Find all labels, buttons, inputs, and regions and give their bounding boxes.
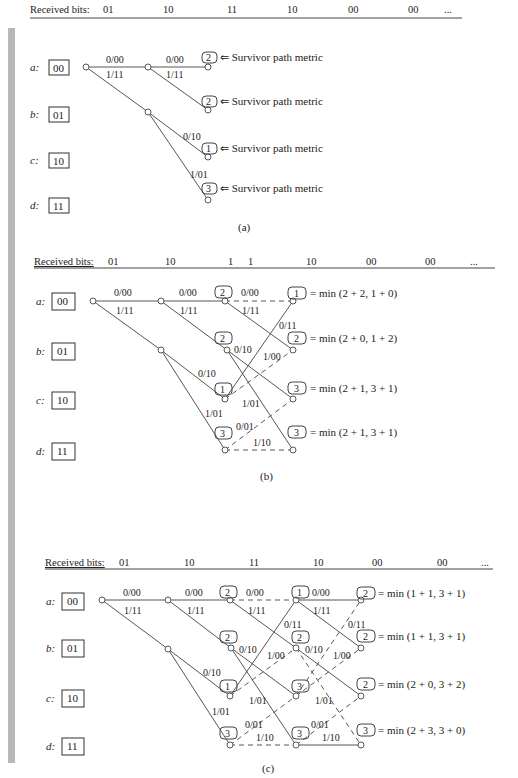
state-label: b: [36,345,45,357]
path-metric: 1 [206,143,211,154]
metric-note: ⇐ Survivor path metric [220,182,323,194]
branch-label: 1/01 [205,408,223,419]
state-label: a: [30,61,39,73]
received-bit: 10 [313,557,324,568]
received-bit: 00 [425,256,436,267]
received-bit: ... [481,557,489,568]
received-bit: 01 [108,256,119,267]
state-label: c: [30,154,39,166]
state-value: 00 [67,595,79,607]
received-bit: 10 [184,557,195,568]
metric-formula: = min (2 + 1, 3 + 1) [310,382,397,395]
branch-label: 1/11 [106,69,123,80]
branch-label: 0/10 [183,131,201,142]
state-label: a: [36,295,45,307]
path-metric: 2 [220,287,225,298]
state-value: 11 [57,445,68,457]
state-label: d: [46,740,55,752]
path-metric: 2 [363,679,368,690]
branch-label: 0/00 [106,54,124,65]
branch-label: 1/11 [313,605,330,616]
branch-label: 0/00 [246,587,264,598]
state-label: d: [36,445,45,457]
branch-label: 0/00 [123,587,141,598]
branch-label: 1/11 [166,69,183,80]
path-metric: 1 [297,587,302,598]
branch-label: 1/01 [190,169,208,180]
branch-label: 0/10 [203,667,221,678]
received-bit: 00 [408,4,419,15]
branch-label: 0/01 [245,719,263,730]
path-metric: 3 [294,427,299,438]
path-metric: 3 [363,725,368,736]
received-bits-label: Received bits: [45,557,105,568]
state-value: 11 [53,200,64,212]
received-bit: 11 [249,557,259,568]
received-bit: 01 [119,557,130,568]
branch-label: 0/00 [241,287,259,298]
branch-label: 1/11 [124,605,141,616]
state-value: 01 [67,642,78,654]
branch-label: 0/10 [198,368,216,379]
state-label: b: [46,642,55,654]
branch-label: 0/11 [284,619,301,630]
received-bits-label: Received bits: [34,256,94,267]
path-metric: 2 [363,631,368,642]
path-metric: 3 [297,681,302,692]
state-label: b: [30,108,39,120]
branch-label: 0/11 [348,619,365,630]
state-value: 01 [57,345,68,357]
received-bit: 00 [348,4,359,15]
panel-b: Received bits: 01 10 1 1 10 00 00 ... a:… [34,256,495,483]
panel-a: Received bits: 01 10 11 10 00 00 ... a: … [30,4,462,234]
path-metric: 2 [225,587,230,598]
branch-label: 0/00 [166,54,184,65]
branch-label: 1/01 [242,398,260,409]
figure-caption: (b) [260,470,273,483]
received-bit: 11 [227,4,237,15]
branch-label: 0/10 [234,344,252,355]
received-bit: 10 [287,4,298,15]
branch-label: 1/00 [267,650,285,661]
branch-label: 0/00 [312,587,330,598]
path-metric: 2 [206,52,211,63]
metric-formula: = min (2 + 0, 1 + 2) [310,332,397,345]
path-metric: 2 [297,632,302,643]
branch-label: 1/10 [253,437,271,448]
path-metric: 2 [363,588,368,599]
received-bit: 00 [372,557,383,568]
branch-label: 1/11 [187,605,204,616]
received-bit: 00 [437,557,448,568]
state-value: 10 [53,155,65,167]
branch-label: 1/00 [263,351,281,362]
received-bit: 00 [366,256,377,267]
branch-label: 1/01 [315,695,333,706]
branch-label: 1/10 [322,732,340,743]
state-label: c: [46,692,55,704]
branch-label: 0/10 [305,644,323,655]
path-metric: 3 [206,183,211,194]
branch-label: 0/01 [236,421,254,432]
metric-formula: = min (1 + 1, 3 + 1) [378,630,465,643]
metric-note: ⇐ Survivor path metric [220,142,323,154]
metric-formula: = min (2 + 1, 3 + 1) [310,426,397,439]
received-bit: 10 [165,256,176,267]
metric-note: ⇐ Survivor path metric [220,95,323,107]
panel-c: Received bits: 01 10 11 10 00 00 ... a: … [45,557,493,775]
received-bits-label: Received bits: [30,4,90,15]
branch-label: 1/11 [248,605,265,616]
trellis-figure: Received bits: 01 10 11 10 00 00 ... a: … [0,0,518,778]
path-metric: 2 [294,333,299,344]
path-metric: 3 [297,728,302,739]
branch-label: 1/00 [333,650,351,661]
received-bit: 10 [306,256,317,267]
branch-label: 0/11 [279,320,296,331]
state-label: a: [46,595,55,607]
received-bit: 1 [248,256,253,267]
branch-label: 0/01 [311,719,329,730]
received-bit: 01 [103,4,114,15]
state-value: 00 [57,295,69,307]
state-label: d: [30,199,39,211]
received-bit: ... [444,4,452,15]
branch-label: 1/01 [249,695,267,706]
